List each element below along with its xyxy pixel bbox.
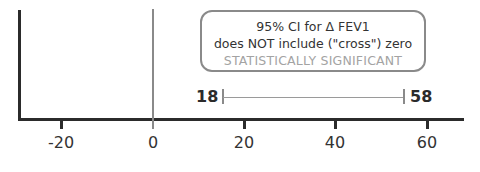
ci-lower-label: 18: [196, 87, 218, 106]
x-tick-label: 60: [402, 133, 452, 152]
x-tick-label: 0: [128, 133, 178, 152]
annotation-callout: 95% CI for Δ FEV1 does NOT include ("cro…: [200, 10, 426, 72]
ci-whisker: [223, 97, 404, 98]
callout-explanation: does NOT include ("cross") zero: [202, 35, 424, 52]
confidence-interval-chart: -20 0 20 40 60 18 58 95% CI for Δ FEV1 d…: [0, 0, 480, 172]
x-tick-20: [243, 120, 246, 129]
ci-upper-label: 58: [410, 87, 432, 106]
x-tick-0: [152, 120, 154, 129]
x-tick-neg20: [60, 120, 63, 129]
x-tick-40: [334, 120, 337, 129]
x-tick-label: -20: [36, 133, 86, 152]
callout-title: 95% CI for Δ FEV1: [202, 18, 424, 35]
callout-significance: STATISTICALLY SIGNIFICANT: [202, 52, 424, 69]
x-axis: [18, 118, 464, 121]
x-tick-label: 40: [310, 133, 360, 152]
y-axis: [18, 10, 21, 121]
x-tick-label: 20: [219, 133, 269, 152]
zero-reference-line: [152, 9, 154, 121]
x-tick-60: [426, 120, 429, 129]
ci-upper-cap: [403, 89, 405, 104]
